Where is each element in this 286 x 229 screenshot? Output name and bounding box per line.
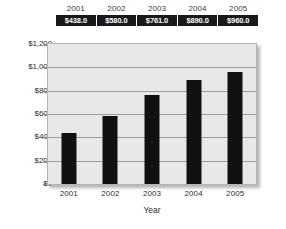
- data-table-value-cell: $890.0: [177, 15, 218, 26]
- bar-slot: [173, 44, 215, 184]
- bar-slot: [131, 44, 173, 184]
- data-table-value-row: $438.0 $580.0 $761.0 $890.0 $960.0: [56, 15, 259, 26]
- data-table-header-cell: 2001: [56, 2, 97, 15]
- bar-2002: [103, 116, 118, 184]
- data-table-header-cell: 2003: [137, 2, 178, 15]
- bar-2005: [228, 72, 243, 184]
- x-axis-tick-label: 2004: [174, 189, 214, 198]
- bar-chart-figure: 2001 2002 2003 2004 2005 $438.0 $580.0 $…: [0, 0, 286, 229]
- bar-2003: [144, 95, 159, 184]
- data-table-value-cell: $960.0: [218, 15, 259, 26]
- data-table-header-row: 2001 2002 2003 2004 2005: [56, 2, 259, 15]
- data-table-header-cell: 2005: [218, 2, 259, 15]
- bar-2004: [186, 80, 201, 184]
- data-table-value-cell: $761.0: [137, 15, 178, 26]
- x-axis-title: Year: [47, 205, 257, 215]
- data-table-header-cell: 2004: [177, 2, 218, 15]
- bar-slot: [214, 44, 256, 184]
- bar-2001: [61, 133, 76, 184]
- data-table-value-cell: $438.0: [56, 15, 97, 26]
- data-table-value-cell: $580.0: [96, 15, 137, 26]
- chart-data-table: 2001 2002 2003 2004 2005 $438.0 $580.0 $…: [55, 2, 259, 26]
- plot-area: [47, 43, 257, 185]
- bars-layer: [48, 44, 256, 184]
- bar-slot: [48, 44, 90, 184]
- x-axis-tick-label: 2001: [49, 189, 89, 198]
- x-axis-tick-label: 2005: [215, 189, 255, 198]
- data-table-header-cell: 2002: [96, 2, 137, 15]
- x-axis-tick-label: 2003: [132, 189, 172, 198]
- x-axis-tick-label: 2002: [90, 189, 130, 198]
- bar-slot: [90, 44, 132, 184]
